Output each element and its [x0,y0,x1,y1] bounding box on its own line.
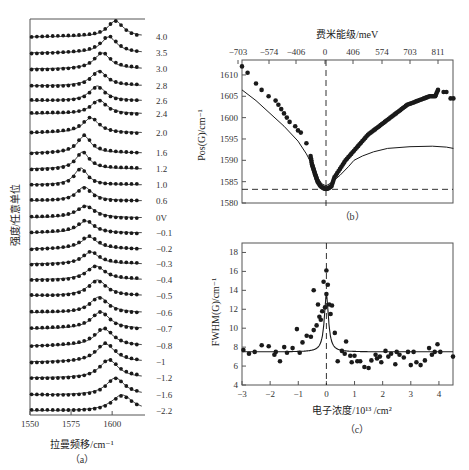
y-tick-label: 10 [229,323,239,333]
panel-a-x-ticks: 155015751600 [21,411,122,429]
y-tick-label: 1580 [220,198,239,208]
panel-c-data-points [241,268,455,370]
gate-voltage-label: −0.3 [156,259,173,269]
panel-b-g-peak-position: 1580158515901595160016051610 −703−574−40… [196,28,456,222]
top-x-tick-label: −574 [260,47,279,57]
gate-voltage-label: −1.2 [156,373,172,383]
panel-b-top-x-ticks: −703−574−4060406574703811 [229,47,445,64]
x-tick-label: 1 [352,389,357,399]
gate-voltage-label: 1.2 [156,164,167,174]
top-x-tick-label: −406 [287,47,306,57]
y-tick-label: 1595 [220,134,239,144]
gate-voltage-label: 2.8 [156,81,168,91]
gate-voltage-label: −1.6 [156,390,173,400]
y-tick-label: 16 [229,266,239,276]
x-tick-label: 1575 [62,419,81,429]
y-tick-label: 1590 [220,155,239,165]
y-tick-label: 6 [234,361,239,371]
y-tick-label: 12 [229,304,238,314]
panel-b-y-axis-title: Pos(G)/cm⁻¹ [196,109,208,161]
gate-voltage-label: 2.4 [156,109,168,119]
gate-voltage-label: 3.0 [156,64,168,74]
panel-a-y-axis-title: 强度/任意单位 [9,184,21,247]
gate-voltage-label: 4.0 [156,32,168,42]
gate-voltage-label: 1.0 [156,180,168,190]
panel-b-top-axis-title: 费米能级/meV [316,28,379,40]
panel-c-y-ticks: 4681012141618 [229,247,246,390]
x-tick-label: 0 [324,389,329,399]
y-tick-label: 8 [234,342,239,352]
panel-b-theory-curve [242,90,453,186]
panel-a-caption: （a） [70,454,94,465]
gate-voltage-label: 0.6 [156,196,168,206]
y-tick-label: 18 [229,247,239,257]
panel-b-caption: （b） [340,211,365,222]
gate-voltage-label: −0.7 [156,324,173,334]
top-x-tick-label: 406 [346,47,360,57]
panel-b-reference-lines [242,60,453,209]
gate-voltage-label: −0.2 [156,244,172,254]
panel-c-g-peak-fwhm: 4681012141618 −3−2−101234 电子浓度/10¹³ /cm²… [210,243,455,435]
x-tick-label: 3 [409,389,414,399]
y-tick-label: 1610 [220,70,239,80]
panel-a-x-axis-title: 拉曼频移/cm⁻¹ [50,438,113,450]
panel-c-x-axis-title: 电子浓度/10¹³ /cm² [312,404,391,416]
x-tick-label: −1 [293,389,303,399]
gate-voltage-label: 0V [156,213,168,223]
top-x-tick-label: 703 [403,47,417,57]
y-tick-label: 1600 [220,113,239,123]
gate-voltage-label: −0.6 [156,308,173,318]
gate-voltage-label: −1 [156,357,166,367]
panel-c-caption: （c） [345,424,369,435]
panel-b-frame [242,60,453,203]
gate-voltage-label: 3.5 [156,48,168,58]
gate-voltage-label: 1.6 [156,148,168,158]
gate-voltage-label: −0.4 [156,275,173,285]
gate-voltage-label: −0.8 [156,341,173,351]
x-tick-label: −3 [237,389,247,399]
panel-c-x-ticks: −3−2−101234 [237,381,441,399]
figure-canvas: 4.03.53.02.82.62.42.01.61.21.00.60V−0.1−… [0,0,469,470]
x-tick-label: 1600 [103,419,122,429]
gate-voltage-label: 2.0 [156,128,168,138]
top-x-tick-label: 811 [431,47,444,57]
gate-voltage-label: 2.6 [156,96,168,106]
gate-voltage-label: −0.5 [156,291,173,301]
x-tick-label: 4 [437,389,442,399]
top-x-tick-label: −703 [229,47,248,57]
top-x-tick-label: 574 [375,47,389,57]
y-tick-label: 1605 [220,91,239,101]
x-tick-label: 2 [380,389,385,399]
gate-voltage-label: −2.2 [156,406,172,416]
y-tick-label: 1585 [220,177,239,187]
panel-a-spectra-curves [30,19,142,412]
x-tick-label: −2 [265,389,275,399]
panel-a-raman-spectra: 4.03.53.02.82.62.42.01.61.21.00.60V−0.1−… [9,19,173,465]
panel-a-gate-voltage-labels: 4.03.53.02.82.62.42.01.61.21.00.60V−0.1−… [156,32,173,416]
panel-b-data-points [240,64,456,191]
top-x-tick-label: 0 [323,47,328,57]
y-tick-label: 14 [229,285,239,295]
panel-c-y-axis-title: FWHM(G)/cm⁻¹ [210,278,222,346]
gate-voltage-label: −0.1 [156,228,172,238]
x-tick-label: 1550 [21,419,40,429]
